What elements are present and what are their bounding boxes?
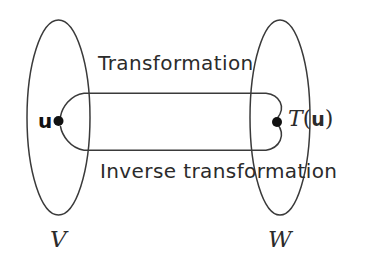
domain-point-dot (54, 116, 64, 126)
forward-transformation-label: Transformation (98, 53, 254, 73)
inverse-transformation-label: Inverse transformation (100, 161, 337, 181)
codomain-point-label-close-paren: ) (325, 106, 334, 131)
codomain-point-label-prefix: T (288, 106, 303, 131)
codomain-point-dot (272, 117, 282, 127)
domain-set-label: V (50, 228, 67, 251)
inverse-transformation-arrow (61, 124, 282, 150)
domain-point-label: u (38, 111, 52, 131)
forward-transformation-arrow (61, 93, 282, 118)
diagram-canvas (0, 0, 375, 264)
codomain-set-label: W (268, 228, 292, 251)
codomain-point-label-open-paren: ( (303, 106, 312, 131)
codomain-point-label: T(u) (288, 108, 333, 130)
codomain-point-label-arg: u (311, 108, 325, 130)
transformation-diagram: Transformation Inverse transformation u … (0, 0, 375, 264)
